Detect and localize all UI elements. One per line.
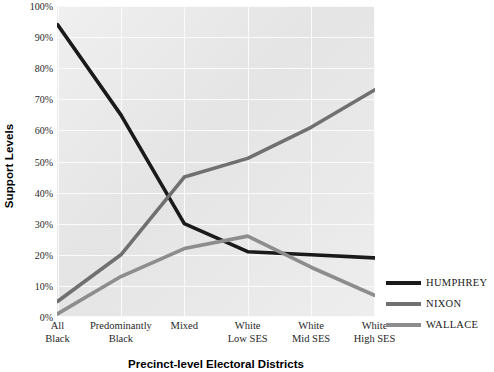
y-axis-tick-label: 10% [35,280,53,291]
y-axis-tick-label: 70% [35,94,53,105]
legend-color-swatch [386,302,421,306]
series-line-nixon [58,90,375,301]
x-axis-tick-label: WhiteMid SES [292,320,330,345]
legend-item-humphrey[interactable]: HUMPHREY [386,272,494,293]
chart-legend: HUMPHREYNIXONWALLACE [386,272,494,335]
y-axis-title: Support Levels [0,96,18,236]
y-axis-tick-label: 90% [35,32,53,43]
x-axis-tick-label-line: Mid SES [292,333,330,346]
x-axis-tick-label: Mixed [171,320,198,333]
x-axis-tick-label: AllBlack [45,320,70,345]
x-axis-tick-label-line: Mixed [171,320,198,333]
x-axis-title: Precinct-level Electoral Districts [57,358,375,370]
chart-plot-area [57,6,375,317]
chart-series-lines [57,6,375,317]
x-axis-tick-label-line: White [292,320,330,333]
series-line-humphrey [58,25,375,258]
legend-label: NIXON [426,298,461,309]
legend-label: WALLACE [426,319,478,330]
x-axis-tick-label: PredominantlyBlack [90,320,152,345]
x-axis-tick-label-line: Black [45,333,70,346]
series-line-wallace [58,236,375,314]
y-axis-tick-label: 40% [35,187,53,198]
legend-color-swatch [386,281,421,285]
y-axis-tick-label: 100% [30,1,53,12]
legend-item-nixon[interactable]: NIXON [386,293,494,314]
x-axis-tick-label: WhiteLow SES [228,320,268,345]
y-axis-tick-label: 50% [35,156,53,167]
y-axis-tick-label: 20% [35,249,53,260]
y-axis-tick-label: 30% [35,218,53,229]
y-axis-title-text: Support Levels [3,124,15,208]
y-axis-tick-label: 80% [35,63,53,74]
x-axis-tick-label-line: All [45,320,70,333]
x-axis-tick-label-line: White [228,320,268,333]
x-axis-tick-label-line: Black [90,333,152,346]
x-axis-tick-labels: AllBlackPredominantlyBlackMixedWhiteLow … [57,320,375,354]
legend-item-wallace[interactable]: WALLACE [386,314,494,335]
x-axis-tick-label-line: Low SES [228,333,268,346]
legend-label: HUMPHREY [426,277,487,288]
legend-color-swatch [386,323,421,327]
y-axis-tick-labels: 0%10%20%30%40%50%60%70%80%90%100% [18,6,57,317]
x-axis-tick-label-line: Predominantly [90,320,152,333]
y-axis-tick-label: 60% [35,125,53,136]
